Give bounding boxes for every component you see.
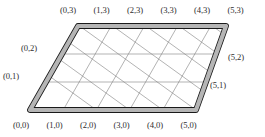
vertex-label-left: (0,1) [3, 72, 19, 81]
vertex-label-bottom: (2,0) [80, 121, 96, 130]
vertex-label-top: (0,3) [60, 6, 76, 15]
vertex-label-top: (5,3) [228, 6, 244, 15]
vertex-label-top: (2,3) [127, 6, 143, 15]
vertex-label-bottom: (4,0) [147, 121, 163, 130]
vertex-label-bottom: (3,0) [114, 121, 130, 130]
vertex-label-top: (4,3) [194, 6, 210, 15]
vertex-label-right: (5,2) [228, 53, 244, 62]
vertex-label-top: (3,3) [161, 6, 177, 15]
vertex-label-bottom: (1,0) [47, 121, 63, 130]
vertex-label-bottom: (5,0) [181, 121, 197, 130]
triangular-mesh-figure: (0,3) (1,3) (2,3) (3,3) (4,3) (5,3) (0,0… [0, 0, 265, 137]
vertex-label-left: (0,2) [21, 44, 37, 53]
vertex-label-bottom: (0,0) [13, 121, 29, 130]
vertex-label-top: (1,3) [94, 6, 110, 15]
mesh-diagram [0, 0, 265, 137]
vertex-label-right: (5,1) [210, 81, 226, 90]
